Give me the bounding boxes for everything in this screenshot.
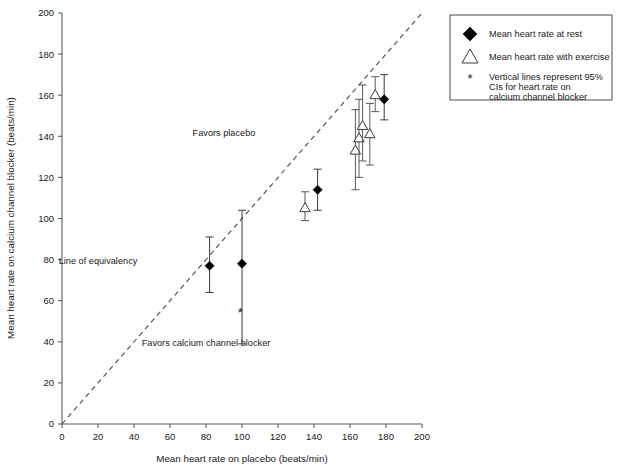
y-axis-ticks: 020406080100120140160180200 (38, 7, 62, 429)
data-point-diamond (237, 259, 246, 268)
annotation-0: Favors placebo (193, 128, 256, 138)
y-tick-label: 20 (43, 377, 54, 388)
chart-root: 020406080100120140160180200 020406080100… (0, 0, 621, 473)
legend-label-ci-line2: CIs for heart rate on (489, 82, 571, 92)
star-icon: * (467, 71, 472, 86)
x-tick-label: 160 (342, 431, 358, 442)
data-point-diamond (380, 95, 389, 104)
scatter-plot: 020406080100120140160180200 020406080100… (0, 0, 621, 473)
data-point-diamond (313, 185, 322, 194)
annotation-1: Line of equivalency (59, 256, 138, 266)
x-tick-label: 20 (93, 431, 104, 442)
x-tick-label: 120 (270, 431, 286, 442)
x-tick-label: 140 (306, 431, 322, 442)
data-point-triangle (365, 129, 375, 138)
legend-label-ci-line3: calcium channel blocker (489, 92, 587, 102)
data-point-diamond (205, 261, 214, 270)
y-tick-label: 0 (49, 418, 54, 429)
y-tick-label: 60 (43, 295, 54, 306)
x-tick-label: 80 (201, 431, 212, 442)
legend-label-exercise: Mean heart rate with exercise (489, 52, 610, 62)
x-tick-label: 40 (129, 431, 140, 442)
legend-label-rest: Mean heart rate at rest (489, 29, 582, 39)
x-tick-label: 100 (234, 431, 250, 442)
legend: Mean heart rate at rest Mean heart rate … (450, 15, 612, 102)
y-tick-label: 100 (38, 213, 54, 224)
extra-markers: * (238, 305, 243, 320)
y-tick-label: 160 (38, 90, 54, 101)
star-marker: * (238, 305, 243, 320)
series-mean-heart-rate-with-exercise (300, 77, 381, 221)
x-tick-label: 180 (378, 431, 394, 442)
x-tick-label: 60 (165, 431, 176, 442)
y-axis-title: Mean heart rate on calcium channel block… (5, 97, 16, 339)
x-tick-label: 0 (59, 431, 64, 442)
y-tick-label: 80 (43, 254, 54, 265)
x-tick-label: 200 (414, 431, 430, 442)
series-mean-heart-rate-at-rest (205, 75, 389, 344)
y-tick-label: 140 (38, 131, 54, 142)
x-axis-ticks: 020406080100120140160180200 (59, 424, 430, 442)
y-tick-label: 40 (43, 336, 54, 347)
legend-label-ci-line1: Vertical lines represent 95% (489, 72, 603, 82)
annotation-2: Favors calcium channel blocker (142, 338, 271, 348)
data-point-triangle (370, 90, 380, 99)
y-tick-label: 120 (38, 172, 54, 183)
y-tick-label: 200 (38, 7, 54, 18)
x-axis-title: Mean heart rate on placebo (beats/min) (156, 453, 328, 464)
y-tick-label: 180 (38, 49, 54, 60)
data-point-triangle (300, 203, 310, 212)
